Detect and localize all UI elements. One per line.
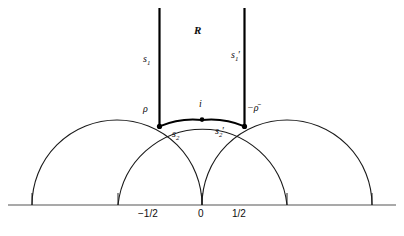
- arc-side-s2: [160, 120, 203, 127]
- axis-tick-label-minus-half: −1/2: [138, 209, 158, 219]
- point-label-i: i: [199, 99, 202, 109]
- figure-root: R s1 s1′ ρ i −ρ̄ s2 s2′ −1/2 0 1/2: [0, 0, 404, 236]
- axis-tick-label-zero: 0: [198, 209, 204, 219]
- side-label-s1-prime-mark: ′: [238, 49, 240, 60]
- point-label-rho: ρ: [143, 104, 148, 114]
- side-label-s2-prime: s2′: [215, 126, 225, 139]
- side-label-s1-sub: 1: [147, 59, 150, 66]
- vertex-dot-rho: [157, 124, 162, 129]
- diagram-canvas: [0, 0, 404, 236]
- region-label-R: R: [194, 25, 201, 36]
- point-label-minus-rho-bar: −ρ̄: [247, 103, 259, 113]
- side-label-s1: s1: [143, 54, 150, 67]
- side-label-s2-sub: 2: [176, 134, 179, 141]
- side-label-s1-prime: s1′: [231, 50, 241, 63]
- side-label-s2: s2: [172, 129, 179, 142]
- side-label-s2-prime-mark: ′: [222, 125, 224, 136]
- vertex-dot-minus-rho-bar: [242, 124, 247, 129]
- vertex-dot-i: [200, 117, 205, 122]
- axis-tick-label-plus-half: 1/2: [232, 209, 246, 219]
